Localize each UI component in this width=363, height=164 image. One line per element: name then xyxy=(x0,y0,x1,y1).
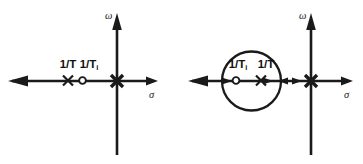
right-s-plane-diagram: 1/Ti 1/T ω σ xyxy=(0,0,363,164)
right-locus-arrow-1 xyxy=(222,78,232,85)
right-zero-label: 1/Ti xyxy=(229,58,248,72)
right-zero-marker-1overTi xyxy=(233,77,240,84)
right-real-axis-arrowhead-right xyxy=(341,77,353,86)
right-imaginary-axis-arrowhead-up xyxy=(306,13,316,30)
right-pole-label: 1/T xyxy=(258,58,275,70)
right-sigma-axis-label: σ xyxy=(344,89,350,100)
right-real-axis-arrowhead-left xyxy=(188,76,208,87)
pole-zero-figure: 1/T 1/Ti ω σ xyxy=(0,0,363,164)
right-locus-arrow-4 xyxy=(278,78,288,85)
right-omega-axis-label: ω xyxy=(299,10,306,21)
right-locus-arrow-2 xyxy=(263,78,273,85)
right-locus-arrow-3 xyxy=(292,78,302,85)
